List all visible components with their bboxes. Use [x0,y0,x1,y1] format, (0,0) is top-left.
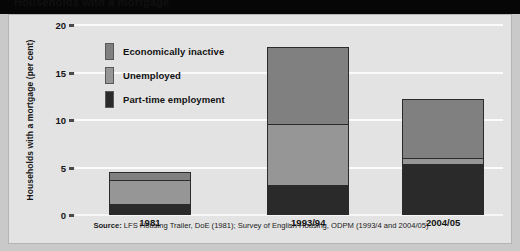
bar-segment-economically-inactive [403,100,483,158]
figure-title-strip: Households with a mortgage [0,0,520,14]
legend-label: Unemployed [123,70,181,81]
y-tick-mark [69,24,74,27]
y-tick-mark [69,119,74,122]
source-note: Source: LFS Housing Trailer, DoE (1981);… [9,221,512,230]
source-text: LFS Housing Trailer, DoE (1981); Survey … [124,221,429,230]
bar-segment-economically-inactive [110,173,190,180]
y-tick-label: 5 [61,162,66,173]
gridline [75,24,503,26]
legend-swatch-icon [105,43,114,60]
y-tick-label: 15 [55,67,66,78]
chart-card: Households with a mortgage (per cent) 05… [8,14,512,244]
bar-segment-part-time-employment [110,204,190,214]
y-tick-mark [69,72,74,75]
bar-segment-part-time-employment [403,164,483,214]
bar-1981 [109,172,191,215]
y-tick-label: 20 [55,20,66,31]
legend-item: Unemployed [105,63,225,87]
legend-label: Economically inactive [123,46,224,57]
y-axis-label-text: Households with a mortgage (per cent) [25,40,35,201]
legend-swatch-icon [105,67,114,84]
y-tick-mark [69,214,74,217]
y-axis-label: Households with a mortgage (per cent) [23,25,37,215]
figure-title: Households with a mortgage [14,0,170,8]
source-lead: Source: [93,221,121,230]
legend-label: Part-time employment [123,94,225,105]
legend-item: Economically inactive [105,39,225,63]
chart-legend: Economically inactiveUnemployedPart-time… [105,39,225,111]
y-tick-label: 10 [55,115,66,126]
legend-swatch-icon [105,91,114,108]
bar-segment-part-time-employment [268,185,348,214]
bar-1993-94 [267,47,349,215]
y-tick-label: 0 [61,210,66,221]
bar-segment-unemployed [110,180,190,204]
bar-2004-05 [402,99,484,215]
legend-item: Part-time employment [105,87,225,111]
y-tick-mark [69,167,74,170]
chart-figure: Households with a mortgage Households wi… [0,0,520,251]
bar-segment-economically-inactive [268,48,348,124]
bar-segment-unemployed [268,124,348,185]
